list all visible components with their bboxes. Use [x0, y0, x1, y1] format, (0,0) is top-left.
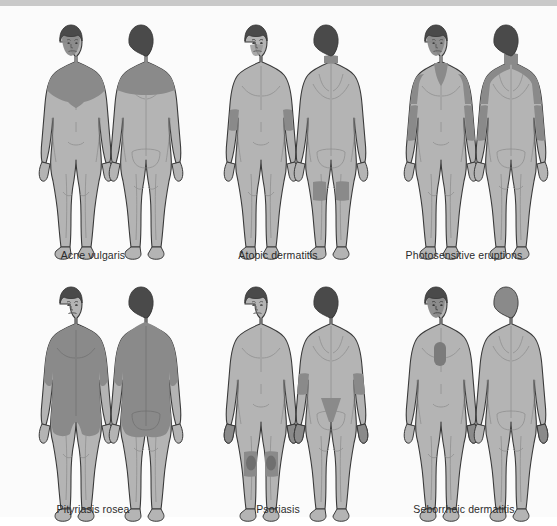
panel-acne-vulgaris: Acne vulgaris — [0, 6, 186, 264]
illustration-plate: Acne vulgaris — [0, 6, 557, 517]
caption-pityriasis-rosea: Pityriasis rosea — [0, 503, 186, 515]
caption-atopic-dermatitis: Atopic dermatitis — [185, 249, 371, 261]
caption-acne-vulgaris: Acne vulgaris — [0, 249, 186, 261]
photosensitive-eruptions-posterior-figure — [461, 14, 557, 264]
panel-seborrheic-dermatitis: Seborrheic dermatitis — [371, 268, 557, 518]
caption-psoriasis: Psoriasis — [185, 503, 371, 515]
panel-pityriasis-rosea: Pityriasis rosea — [0, 268, 186, 518]
pityriasis-rosea-posterior-figure — [96, 276, 196, 526]
psoriasis-posterior-figure — [281, 276, 381, 526]
caption-photosensitive-eruptions: Photosensitive eruptions — [371, 249, 557, 261]
panel-atopic-dermatitis: Atopic dermatitis — [185, 6, 371, 264]
panel-psoriasis: Psoriasis — [185, 268, 371, 518]
seborrheic-dermatitis-posterior-figure — [461, 276, 557, 526]
acne-vulgaris-posterior-figure — [96, 14, 196, 264]
caption-seborrheic-dermatitis: Seborrheic dermatitis — [371, 503, 557, 515]
panel-photosensitive-eruptions: Photosensitive eruptions — [371, 6, 557, 264]
atopic-dermatitis-posterior-figure — [281, 14, 381, 264]
